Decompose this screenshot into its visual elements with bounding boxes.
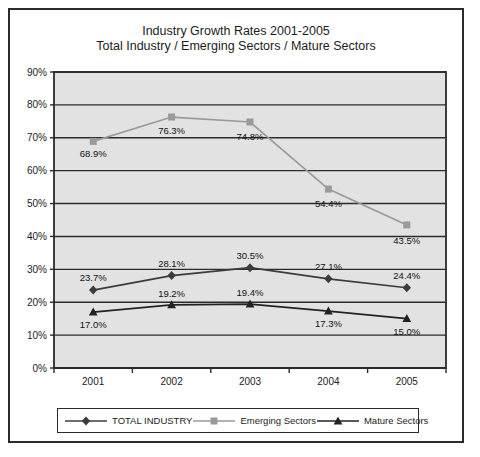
legend-swatch-square bbox=[192, 415, 236, 427]
data-point-label: 17.0% bbox=[80, 319, 107, 330]
legend-item-label: TOTAL INDUSTRY bbox=[112, 415, 192, 426]
y-axis-tick-label: 50% bbox=[27, 198, 47, 209]
data-point-label: 27.1% bbox=[315, 261, 342, 272]
data-point-label: 19.2% bbox=[158, 288, 185, 299]
x-axis-tick-label: 2003 bbox=[239, 376, 262, 387]
data-point-label: 15.0% bbox=[393, 326, 420, 337]
legend-square-marker bbox=[211, 417, 218, 424]
legend-diamond-marker bbox=[82, 416, 90, 425]
legend-swatch-diamond bbox=[64, 415, 108, 427]
data-point-label: 76.3% bbox=[158, 125, 185, 136]
y-axis-tick-label: 10% bbox=[27, 330, 47, 341]
legend-item-emerging-sectors[interactable]: Emerging Sectors bbox=[192, 415, 316, 427]
data-point-label: 68.9% bbox=[80, 148, 107, 159]
legend-item-label: Mature Sectors bbox=[364, 415, 428, 426]
x-axis-tick-label: 2005 bbox=[396, 376, 419, 387]
data-point-label: 74.8% bbox=[237, 131, 264, 142]
line-chart-plot: 0%10%20%30%40%50%60%70%80%90%20012002200… bbox=[10, 10, 462, 441]
series-emerging-sectors-square-marker bbox=[403, 221, 410, 228]
data-point-label: 54.4% bbox=[315, 198, 342, 209]
series-emerging-sectors-square-marker bbox=[247, 118, 254, 125]
series-emerging-sectors-square-marker bbox=[90, 138, 97, 145]
legend-item-total-industry[interactable]: TOTAL INDUSTRY bbox=[64, 415, 192, 427]
series-emerging-sectors-square-marker bbox=[168, 114, 175, 121]
y-axis-tick-label: 90% bbox=[27, 67, 47, 78]
x-axis-tick-label: 2001 bbox=[82, 376, 105, 387]
legend-item-mature-sectors[interactable]: Mature Sectors bbox=[316, 415, 428, 427]
data-point-label: 43.5% bbox=[393, 235, 420, 246]
data-point-label: 24.4% bbox=[393, 270, 420, 281]
chart-frame: Industry Growth Rates 2001-2005 Total In… bbox=[8, 8, 464, 443]
x-axis-tick-label: 2004 bbox=[317, 376, 340, 387]
y-axis-tick-label: 80% bbox=[27, 99, 47, 110]
x-axis-tick-label: 2002 bbox=[160, 376, 183, 387]
data-point-label: 19.4% bbox=[237, 287, 264, 298]
y-axis-tick-label: 0% bbox=[33, 363, 48, 374]
y-axis-tick-label: 20% bbox=[27, 297, 47, 308]
y-axis-tick-label: 70% bbox=[27, 132, 47, 143]
data-point-label: 17.3% bbox=[315, 318, 342, 329]
legend-swatch-triangle bbox=[316, 415, 360, 427]
data-point-label: 30.5% bbox=[237, 250, 264, 261]
data-point-label: 23.7% bbox=[80, 272, 107, 283]
chart-legend: TOTAL INDUSTRYEmerging SectorsMature Sec… bbox=[57, 408, 419, 433]
y-axis-tick-label: 40% bbox=[27, 231, 47, 242]
y-axis-tick-label: 60% bbox=[27, 165, 47, 176]
y-axis-tick-label: 30% bbox=[27, 264, 47, 275]
plot-background bbox=[54, 72, 446, 368]
legend-item-label: Emerging Sectors bbox=[240, 415, 316, 426]
series-emerging-sectors-square-marker bbox=[325, 186, 332, 193]
data-point-label: 28.1% bbox=[158, 258, 185, 269]
